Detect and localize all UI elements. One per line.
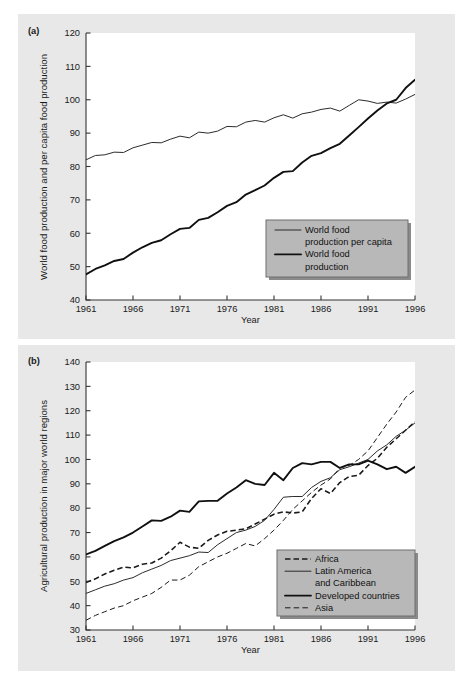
chart-b-xtick-label: 1986 (311, 634, 332, 644)
chart-b-ytick-label: 70 (70, 528, 80, 538)
chart-b-legend-label-2: Developed countries (315, 591, 400, 601)
chart-b-xtick-label: 1966 (123, 634, 144, 644)
chart-b-panel-label: (b) (28, 356, 40, 366)
chart-b-legend-label-1-cont: and Caribbean (315, 578, 376, 588)
chart-b-legend-label-0: Africa (315, 554, 340, 564)
chart-b-ytick-label: 130 (64, 382, 80, 392)
chart-b-xtick-label: 1991 (358, 634, 379, 644)
chart-b-ytick-label: 140 (64, 357, 80, 367)
chart-b-ytick-label: 40 (70, 601, 80, 611)
chart-b-ytick-label: 120 (64, 406, 80, 416)
chart-b-ytick-label: 50 (70, 577, 80, 587)
chart-b-xtick-label: 1971 (170, 634, 191, 644)
chart-b-ytick-label: 100 (64, 455, 80, 465)
chart-b-legend-label-1: Latin America (315, 566, 372, 576)
chart-b-ytick-label: 60 (70, 552, 80, 562)
chart-b-ytick-label: 80 (70, 503, 80, 513)
chart-b-yaxis-title: Agricultural production in major world r… (38, 400, 49, 592)
chart-b-xtick-label: 1981 (264, 634, 285, 644)
chart-b-ytick-label: 110 (65, 430, 80, 440)
chart-b-canvas: 3040506070809010011012013014019611966197… (0, 0, 475, 692)
chart-b-xaxis-title: Year (241, 645, 260, 655)
chart-b-xtick-label: 1961 (76, 634, 97, 644)
chart-b-legend: AfricaLatin Americaand CaribbeanDevelope… (277, 550, 418, 619)
chart-b-xtick-label: 1996 (405, 634, 426, 644)
chart-b-xtick-label: 1976 (217, 634, 238, 644)
figure-root: 4050607080901001101201961196619711976198… (0, 0, 475, 692)
chart-b-ytick-label: 90 (70, 479, 80, 489)
chart-b-legend-label-3: Asia (315, 603, 334, 613)
